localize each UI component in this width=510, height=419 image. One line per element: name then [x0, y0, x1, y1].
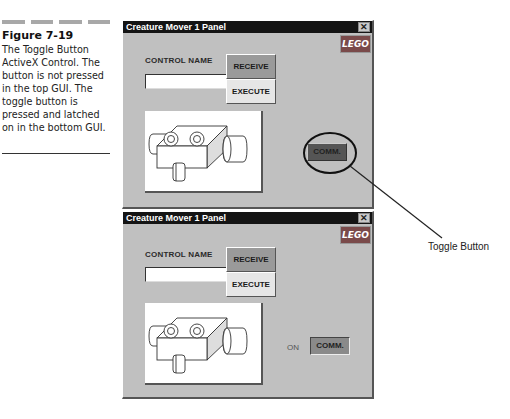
- callout-label: Toggle Button: [428, 241, 489, 252]
- callout-ellipse-icon: [0, 0, 510, 419]
